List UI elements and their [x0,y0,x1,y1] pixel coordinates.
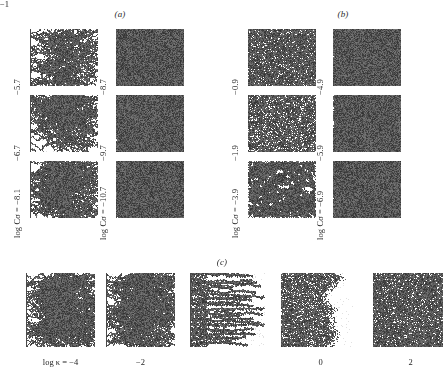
row-label-a-col2-row3: log Cσ = −10.7 [99,187,108,240]
group-caption-a: (a) [112,9,128,19]
panel-canvas [30,95,98,152]
row-label-b-col1-row3: log Cσ = −3.9 [231,189,240,238]
panel-canvas [116,95,184,152]
group-caption-b: (b) [335,9,351,19]
panel-c-col3 [190,273,265,347]
panel-c-col5 [373,273,443,347]
panel-canvas [333,95,401,152]
panel-canvas [248,161,316,218]
panel-a-col2-row3 [116,161,184,218]
panel-canvas [248,95,316,152]
row-label-b-col2-row1: −4.9 [316,79,325,95]
seed-axis [30,29,31,86]
seed-axis [30,161,31,218]
panel-canvas [333,29,401,86]
panel-canvas [116,161,184,218]
group-caption-c: (c) [214,257,230,267]
row-label-b-col1-row2: −1.9 [231,145,240,161]
panel-b-col2-row3 [333,161,401,218]
panel-c-col4 [281,273,353,347]
row-label-b-col2-row2: −5.9 [316,145,325,161]
panel-a-col1-row1 [30,29,98,86]
row-label-a-col2-row1: −8.7 [99,79,108,95]
panel-canvas [106,273,175,347]
seed-axis [106,273,107,347]
col-label-c-col4: 0 [286,358,355,367]
panel-c-col2 [106,273,175,347]
col-label-c-col1: log κ = −4 [26,358,95,367]
panel-canvas [373,273,443,347]
row-label-a-col1-row3: log Cσ = −8.1 [13,189,22,238]
panel-canvas [26,273,95,347]
panel-a-col1-row3 [30,161,98,218]
figure-root: (a) −5.7 −6.7 log Cσ = −8.1 −8.7 −9.7 lo… [0,0,447,385]
panel-canvas [281,273,353,347]
row-label-b-col1-row1: −0.9 [231,79,240,95]
row-label-a-col1-row1: −5.7 [13,79,22,95]
panel-canvas [30,29,98,86]
col-label-c-col3: −1 [0,0,9,9]
panel-canvas [248,29,316,86]
panel-b-col1-row3 [248,161,316,218]
panel-b-col2-row2 [333,95,401,152]
col-label-c-col2: −2 [106,358,175,367]
row-label-a-col2-row2: −9.7 [99,145,108,161]
panel-c-col1 [26,273,95,347]
panel-canvas [190,273,265,347]
panel-a-col1-row2 [30,95,98,152]
seed-axis [30,95,31,152]
panel-b-col1-row1 [248,29,316,86]
seed-axis [26,273,27,347]
panel-canvas [116,29,184,86]
panel-canvas [30,161,98,218]
panel-a-col2-row1 [116,29,184,86]
seed-axis [190,273,191,347]
row-label-b-col2-row3: log Cσ = −6.9 [316,191,325,240]
panel-b-col2-row1 [333,29,401,86]
row-label-a-col1-row2: −6.7 [13,145,22,161]
panel-canvas [333,161,401,218]
panel-a-col2-row2 [116,95,184,152]
col-label-c-col5: 2 [376,358,445,367]
panel-b-col1-row2 [248,95,316,152]
